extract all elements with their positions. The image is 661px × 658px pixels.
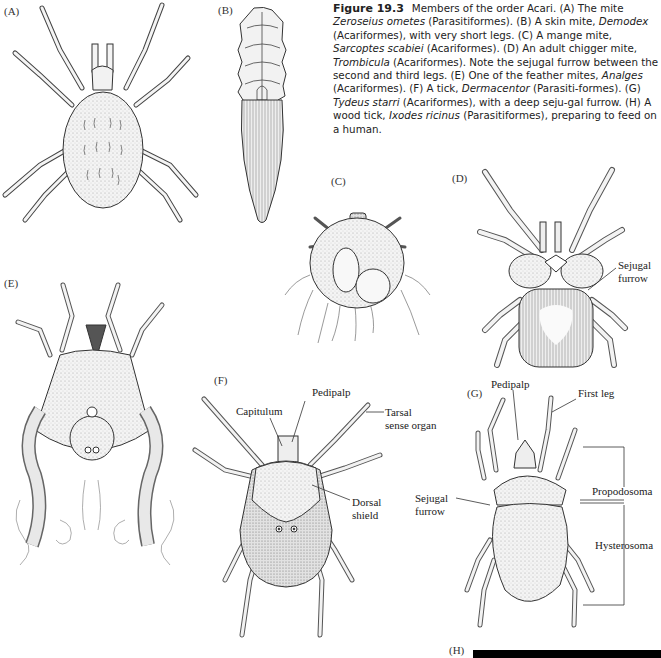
panel-label-a: (A) (4, 5, 20, 18)
callout-g-pedipalp: Pedipalp (491, 378, 530, 391)
callout-g-first-leg: First leg (578, 387, 614, 400)
callout-g-furrow: furrow (415, 505, 445, 518)
callout-d-furrow: furrow (618, 272, 648, 285)
mite-c-illustration (285, 213, 430, 343)
mite-e-illustration (16, 285, 174, 565)
callout-f-tarsal-1: Tarsal (385, 406, 412, 419)
callout-f-tarsal-2: sense organ (385, 419, 436, 432)
mite-b-illustration (238, 7, 286, 222)
panel-label-e: (E) (4, 277, 18, 290)
callout-f-pedipalp: Pedipalp (312, 386, 351, 399)
panel-label-c: (C) (331, 175, 346, 188)
panel-h-photo-cropped (473, 650, 661, 658)
panel-label-h: (H) (449, 644, 465, 657)
callout-g-sejugal: Sejugal (415, 492, 448, 505)
mite-a-illustration (5, 5, 196, 220)
callout-f-dorsal-2: shield (352, 509, 378, 522)
panel-label-g: (G) (467, 387, 483, 400)
callout-d-sejugal: Sejugal (618, 259, 651, 272)
panel-label-b: (B) (218, 4, 233, 16)
callout-f-capitulum: Capitulum (236, 405, 282, 418)
mite-g-illustration (467, 398, 592, 625)
panel-label-d: (D) (452, 172, 468, 185)
callout-f-dorsal-1: Dorsal (352, 496, 381, 509)
mite-d-illustration (480, 170, 625, 367)
figure-illustrations: (A) (C) (0, 0, 661, 658)
callout-g-propodosoma: Propodosoma (592, 485, 653, 498)
panel-label-f: (F) (214, 374, 228, 387)
callout-g-hysterosoma: Hysterosoma (595, 539, 653, 552)
